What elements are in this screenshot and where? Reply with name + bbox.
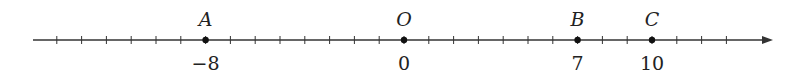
point-name: A <box>197 8 213 30</box>
point-dot-icon <box>574 37 580 43</box>
point-dot-icon <box>202 37 208 43</box>
point-c: C10 <box>640 8 664 74</box>
point-o: O0 <box>396 8 412 74</box>
points: A−8O0B7C10 <box>192 8 665 74</box>
point-name: O <box>396 8 412 30</box>
point-b: B7 <box>570 8 585 74</box>
point-dot-icon <box>649 37 655 43</box>
point-value: 0 <box>398 52 410 74</box>
point-dot-icon <box>401 37 407 43</box>
arrow-head-icon <box>762 36 773 44</box>
point-value: 7 <box>572 52 584 74</box>
point-a: A−8 <box>192 8 220 74</box>
point-value: 10 <box>640 52 664 74</box>
number-line: A−8O0B7C10 <box>0 0 794 79</box>
point-value: −8 <box>192 52 220 74</box>
point-name: C <box>645 8 660 30</box>
point-name: B <box>570 8 585 30</box>
